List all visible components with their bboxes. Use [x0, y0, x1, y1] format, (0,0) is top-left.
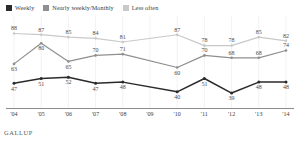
- data-point-label: 70: [201, 47, 207, 53]
- data-point-label: 47: [11, 86, 17, 92]
- data-point: [122, 53, 125, 56]
- data-point-label: 74: [283, 42, 289, 48]
- plot-area: 8887858481877878858263806570716070686874…: [6, 16, 294, 108]
- data-point-label: 80: [38, 45, 44, 51]
- x-axis-tick-label: '06: [65, 111, 72, 117]
- x-axis-tick-labels: '04'05'06'07'08'09'10'11'12'13'14: [6, 111, 294, 123]
- data-point: [13, 32, 16, 35]
- data-point: [67, 60, 70, 63]
- x-axis-tick-label: '12: [228, 111, 235, 117]
- legend-item-nearly-weekly-monthly: Nearly weekly/Monthly: [43, 5, 113, 11]
- data-point-label: 40: [174, 94, 180, 100]
- data-point-label: 78: [201, 37, 207, 43]
- data-point: [94, 37, 97, 40]
- x-axis-tick-label: '10: [173, 111, 180, 117]
- data-point-label: 60: [174, 70, 180, 76]
- x-axis-line: [6, 108, 294, 109]
- data-point-label: 48: [120, 84, 126, 90]
- data-point: [176, 90, 179, 93]
- data-point: [122, 41, 125, 44]
- legend-item-weekly: Weekly: [6, 5, 34, 11]
- data-point: [13, 63, 16, 66]
- data-point: [13, 82, 16, 85]
- data-point-label: 85: [65, 29, 71, 35]
- data-point: [257, 81, 260, 84]
- data-point: [203, 54, 206, 57]
- data-point: [230, 57, 233, 60]
- data-point-label: 68: [256, 50, 262, 56]
- data-point-label: 84: [93, 30, 99, 36]
- data-point-label: 63: [11, 66, 17, 72]
- data-point-label: 70: [93, 47, 99, 53]
- data-point-label: 71: [120, 46, 126, 52]
- data-point: [94, 54, 97, 57]
- data-point: [67, 36, 70, 39]
- line-chart-svg: 8887858481877878858263806570716070686874…: [6, 16, 294, 108]
- data-point-label: 52: [65, 79, 71, 85]
- data-point: [203, 77, 206, 80]
- data-point: [258, 36, 261, 39]
- data-point: [121, 81, 124, 84]
- data-point: [230, 44, 233, 47]
- data-point: [176, 33, 179, 36]
- data-point-label: 85: [256, 29, 262, 35]
- data-point: [285, 49, 288, 52]
- x-axis-tick-label: '04: [10, 111, 17, 117]
- legend-swatch-less-often: [123, 5, 129, 11]
- legend-label-weekly: Weekly: [15, 5, 34, 11]
- data-point: [258, 57, 261, 60]
- x-axis-tick-label: '05: [37, 111, 44, 117]
- data-point-label: 88: [11, 25, 17, 31]
- x-axis-tick-label: '11: [201, 111, 208, 117]
- data-point-label: 39: [229, 95, 235, 101]
- x-axis-tick-label: '13: [255, 111, 262, 117]
- data-point-label: 82: [283, 33, 289, 39]
- chart-legend: Weekly Nearly weekly/Monthly Less often: [6, 2, 158, 14]
- legend-swatch-nearly-weekly-monthly: [43, 5, 49, 11]
- data-point-label: 81: [120, 34, 126, 40]
- data-point-label: 87: [174, 27, 180, 33]
- legend-item-less-often: Less often: [123, 5, 159, 11]
- legend-label-nearly-weekly-monthly: Nearly weekly/Monthly: [52, 5, 113, 11]
- data-point: [40, 77, 43, 80]
- data-point: [40, 33, 43, 36]
- gallup-logo: GALLUP: [4, 129, 33, 136]
- data-point-label: 48: [256, 84, 262, 90]
- data-point: [67, 76, 70, 79]
- data-point: [285, 81, 288, 84]
- x-axis-tick-label: '07: [92, 111, 99, 117]
- x-axis-tick-label: '14: [282, 111, 289, 117]
- chart-container: Weekly Nearly weekly/Monthly Less often …: [0, 0, 300, 143]
- data-point: [94, 82, 97, 85]
- data-point-label: 87: [38, 27, 44, 33]
- data-point-label: 47: [93, 86, 99, 92]
- legend-swatch-weekly: [6, 5, 12, 11]
- data-point-label: 65: [65, 64, 71, 70]
- data-point-label: 51: [38, 81, 44, 87]
- data-point: [40, 42, 43, 45]
- legend-label-less-often: Less often: [132, 5, 159, 11]
- data-point-label: 48: [283, 84, 289, 90]
- data-point-label: 68: [229, 50, 235, 56]
- x-axis-tick-label: '08: [119, 111, 126, 117]
- data-point-label: 78: [229, 37, 235, 43]
- data-point: [176, 66, 179, 69]
- data-point: [230, 92, 233, 95]
- x-axis-tick-label: '09: [146, 111, 153, 117]
- data-point-label: 51: [201, 81, 207, 87]
